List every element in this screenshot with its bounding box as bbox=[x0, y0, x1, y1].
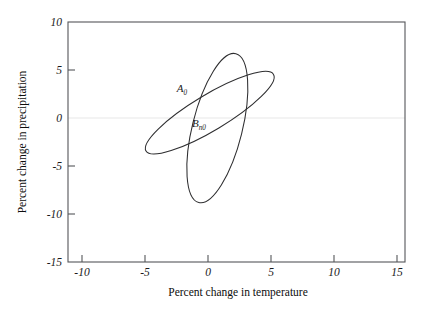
x-tick-label-neg5: -5 bbox=[140, 266, 150, 278]
chart-figure: 10 5 0 -5 -10 -15 -10 -5 0 5 10 15 Perce… bbox=[0, 0, 429, 310]
x-tick-label-5: 5 bbox=[268, 266, 274, 278]
y-axis-title: Percent change in precipitation bbox=[16, 70, 29, 213]
y-tick-label-10: 10 bbox=[51, 16, 63, 28]
x-tick-label-10: 10 bbox=[328, 266, 340, 278]
figure-background bbox=[0, 0, 429, 310]
y-tick-label-0: 0 bbox=[56, 112, 62, 124]
y-tick-label-neg15: -15 bbox=[47, 256, 63, 268]
y-tick-label-5: 5 bbox=[56, 64, 62, 76]
x-tick-label-15: 15 bbox=[391, 266, 403, 278]
x-tick-label-0: 0 bbox=[205, 266, 211, 278]
y-tick-label-neg5: -5 bbox=[52, 160, 62, 172]
x-axis-title: Percent change in temperature bbox=[168, 286, 308, 299]
x-tick-label-neg10: -10 bbox=[74, 266, 90, 278]
y-tick-label-neg10: -10 bbox=[47, 208, 63, 220]
